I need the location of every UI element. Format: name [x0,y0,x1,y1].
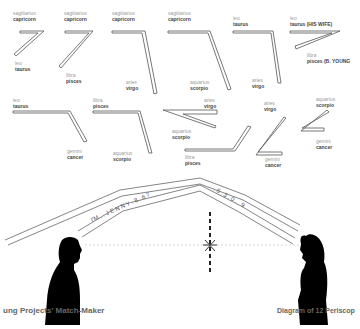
periscope-diagram: I'M . . J E N N Y . 8 . 6 7 . 5 . 3 . 0 … [0,0,360,329]
periscope-4-top-label: sagittarius capricorn [168,10,191,22]
periscope-9-top-label: aries virgo [204,97,216,109]
sign-label: scorpio [172,134,191,140]
sign-label: capricorn [64,16,87,22]
periscope-9-bottom-label: aquarius scorpio [172,128,191,140]
periscope-8-bottom-label: aquarius scorpio [113,150,132,162]
periscope-11 [256,117,286,155]
periscope-7-top-label: leo taurus [13,97,28,109]
periscope-3-top-label: sagittarius capricorn [112,10,135,22]
periscope-11-bottom-label: gemini cancer [265,156,281,168]
periscope-10-label: libra pisces [185,154,201,166]
sign-label: cancer [265,162,281,168]
sign-label: pisces [93,103,109,109]
periscope-11-top-label: aries virgo [264,100,276,112]
periscope-6-top-label: leo taurus (HIS WIFE) [290,15,332,27]
periscope-6 [290,31,340,49]
periscope-3-bottom-label: aries virgo [126,79,138,91]
sign-label: pisces (B. YOUNG [307,58,350,64]
sign-label: taurus (HIS WIFE) [290,21,332,27]
periscope-12 [301,110,329,131]
periscope-5-top-label: leo taurus [233,15,248,27]
sign-label: cancer [67,154,83,160]
periscope-12-bottom-label: gemini cancer [316,138,332,150]
periscope-8-top-label: libra pisces [93,97,109,109]
periscope-10 [185,126,251,151]
periscope-2-top-label: sagittarius capricorn [64,10,87,22]
sign-label: pisces [66,78,82,84]
periscope-7-bottom-label: gemini cancer [67,148,83,160]
sign-label: virgo [264,106,276,112]
sign-label: cancer [316,144,332,150]
periscope-5 [233,31,281,83]
sign-label: capricorn [112,16,135,22]
sign-label: scorpio [113,156,132,162]
periscope-5-bottom-label: aries virgo [252,77,264,89]
sign-label: virgo [252,83,264,89]
periscope-6-bottom-label: libra pisces (B. YOUNG [307,52,350,64]
periscope-8 [93,111,152,153]
sign-label: taurus [233,21,248,27]
sign-label: virgo [204,103,216,109]
periscope-1-top-label: sagittarius capricorn [13,10,36,22]
periscope-4-bottom-label: aquarius scorpio [190,79,209,91]
tube-text-left: I'M . . J E N N Y . 8 . 6 7 [90,191,151,223]
periscope-1 [14,31,44,56]
caption-left: ung Projects' Match-Maker [3,306,104,315]
sign-label: capricorn [13,16,36,22]
main-periscope-tube [5,178,300,245]
sign-label: virgo [126,85,138,91]
sign-label: taurus [15,66,30,72]
periscope-2 [59,31,93,68]
periscope-1-bottom-label: leo taurus [15,60,30,72]
periscope-12-top-label: aquarius scorpio [316,96,335,108]
sign-label: scorpio [190,85,209,91]
periscope-7 [13,111,87,142]
caption-right: Diagram of 12 Periscop [277,307,355,314]
sign-label: taurus [13,103,28,109]
sign-label: capricorn [168,16,191,22]
sign-label: scorpio [316,102,335,108]
periscope-2-bottom-label: libra pisces [66,72,82,84]
sign-label: pisces [185,160,201,166]
periscope-9 [163,110,217,128]
